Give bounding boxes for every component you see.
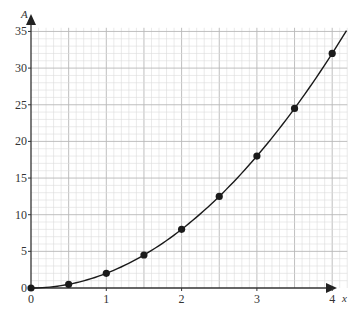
data-point [27, 284, 34, 291]
y-tick-label: 30 [15, 61, 27, 75]
data-point [329, 50, 336, 57]
data-point [140, 251, 147, 258]
x-tick-label: 1 [103, 292, 109, 306]
y-tick-label: 0 [21, 281, 27, 295]
y-tick-label: 25 [15, 98, 27, 112]
y-tick-label: 20 [15, 134, 27, 148]
data-point [178, 226, 185, 233]
x-axis-label: x [341, 292, 347, 304]
y-axis-label: A [20, 8, 28, 20]
x-tick-label: 2 [179, 292, 185, 306]
y-tick-label: 5 [21, 244, 27, 258]
x-tick-label: 3 [254, 292, 260, 306]
data-point [253, 152, 260, 159]
data-point [291, 105, 298, 112]
y-tick-label: 15 [15, 171, 27, 185]
data-point [65, 281, 72, 288]
data-curve [31, 31, 347, 288]
chart: 0123405101520253035 x A [0, 0, 361, 314]
y-tick-label: 10 [15, 208, 27, 222]
y-tick-label: 35 [15, 24, 27, 38]
x-tick-label: 0 [28, 292, 34, 306]
data-point [216, 193, 223, 200]
grid [31, 28, 347, 288]
data-point [103, 270, 110, 277]
x-tick-label: 4 [329, 292, 335, 306]
